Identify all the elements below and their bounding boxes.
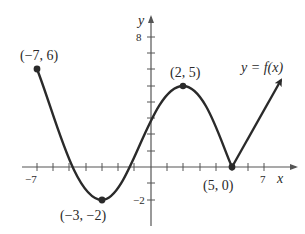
tick-label-neg7: −7: [25, 173, 37, 185]
point-label-neg3-neg2: (−3, −2): [60, 208, 106, 224]
point-5-0: [229, 164, 236, 171]
tick-label-8: 8: [136, 31, 142, 43]
point-neg3-neg2: [99, 197, 106, 204]
point-2-5: [180, 83, 186, 89]
tick-label-7: 7: [260, 173, 266, 185]
function-ray: [232, 80, 281, 167]
function-graph: y x 8 −2 −7 7 (−7, 6) (−3, −2) (2, 5) (5…: [0, 0, 305, 234]
x-axis-label: x: [276, 171, 284, 186]
point-label-5-0: (5, 0): [203, 178, 234, 194]
function-label: y = f(x): [239, 60, 283, 76]
y-axis-label: y: [136, 13, 145, 28]
point-neg7-6: [34, 66, 41, 73]
point-label-2-5: (2, 5): [170, 65, 201, 81]
tick-label-neg2: −2: [133, 194, 145, 206]
point-label-neg7-6: (−7, 6): [20, 48, 59, 64]
